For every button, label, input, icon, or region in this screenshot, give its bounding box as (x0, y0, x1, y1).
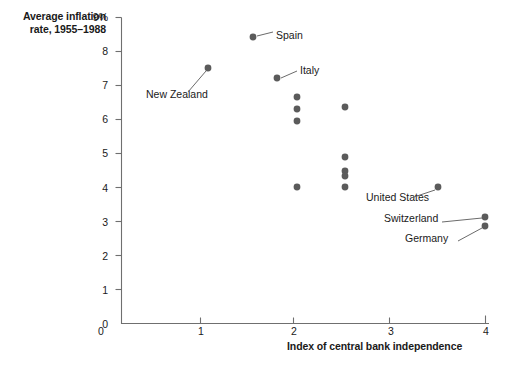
data-point (482, 214, 489, 221)
data-point (294, 118, 301, 125)
data-point (294, 184, 301, 191)
data-point (342, 184, 349, 191)
data-point (435, 184, 442, 191)
x-tick-marks (201, 316, 486, 324)
data-point (342, 173, 349, 180)
data-point (294, 94, 301, 101)
data-point (274, 75, 281, 82)
data-point (205, 65, 212, 72)
data-point (342, 154, 349, 161)
axis-lines (122, 18, 490, 324)
scatter-chart: Average inflation rate, 1955–1988 Index … (0, 0, 507, 370)
data-point (342, 104, 349, 111)
plot-area (0, 0, 507, 370)
annotation-leader-lines (188, 32, 482, 241)
data-point (482, 223, 489, 230)
data-point (294, 106, 301, 113)
y-tick-marks (116, 18, 122, 290)
data-point (250, 34, 257, 41)
data-points (205, 34, 489, 230)
